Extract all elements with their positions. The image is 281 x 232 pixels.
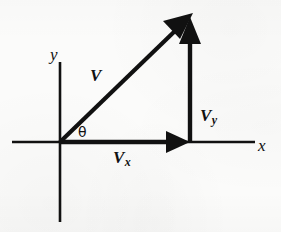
x-axis-label: x <box>258 137 266 154</box>
vy-label-subscript: y <box>212 113 217 127</box>
vx-arrowhead <box>166 131 190 153</box>
resultant-vector-label: V <box>90 67 101 84</box>
vector-diagram-svg <box>0 0 281 232</box>
angle-theta-label: θ <box>78 125 87 139</box>
y-axis-label: y <box>50 46 58 63</box>
vx-component-label: Vx <box>113 149 131 168</box>
figure-canvas: y x V Vx Vy θ <box>0 0 281 232</box>
vy-label-base: V <box>200 106 211 125</box>
vx-label-base: V <box>113 148 124 167</box>
vy-component-label: Vy <box>200 107 217 126</box>
vx-label-subscript: x <box>125 155 131 169</box>
